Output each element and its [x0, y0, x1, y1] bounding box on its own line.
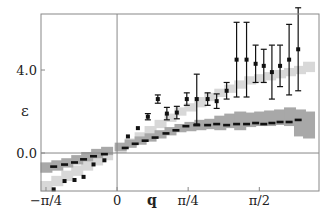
data-point	[206, 97, 210, 101]
x-tick-label: π/2	[249, 193, 270, 208]
data-point	[195, 97, 199, 101]
band-segment	[303, 62, 315, 72]
data-point	[102, 158, 106, 162]
data-point	[235, 58, 239, 62]
dash-marker	[182, 125, 189, 128]
dash-marker	[243, 123, 250, 126]
dash-marker	[101, 153, 108, 156]
y-tick-label: 0.0	[16, 146, 37, 161]
data-point	[254, 62, 258, 66]
dash-marker	[252, 122, 259, 125]
data-point	[73, 178, 77, 182]
data-point	[175, 111, 179, 115]
x-tick-label: π/4	[178, 193, 199, 208]
x-tick-label: 0	[113, 193, 121, 208]
data-point	[165, 112, 169, 116]
data-point	[270, 70, 274, 74]
dash-marker	[50, 165, 57, 168]
dash-marker	[213, 123, 220, 126]
dash-marker	[277, 121, 284, 124]
data-point	[136, 126, 140, 130]
dash-marker	[122, 147, 129, 150]
data-point	[296, 47, 300, 51]
x-tick-label: −π/4	[30, 193, 62, 208]
y-axis-label: ε	[21, 102, 29, 120]
data-point	[245, 58, 249, 62]
dash-marker	[233, 123, 240, 126]
data-point	[287, 58, 291, 62]
band-segment	[303, 112, 315, 139]
y-tick-label: 4.0	[16, 63, 37, 78]
dash-marker	[204, 124, 211, 127]
dash-marker	[71, 161, 78, 164]
dash-marker	[132, 142, 139, 145]
data-point	[156, 97, 160, 101]
data-point	[225, 89, 229, 93]
data-point	[92, 162, 96, 166]
dash-marker	[142, 139, 149, 142]
data-point	[262, 64, 266, 68]
data-point	[215, 99, 219, 103]
dash-marker	[80, 158, 87, 161]
data-point	[82, 175, 86, 179]
dash-marker	[193, 124, 200, 127]
data-point	[185, 97, 189, 101]
dash-marker	[172, 129, 179, 132]
dash-marker	[223, 124, 230, 127]
dash-marker	[286, 121, 293, 124]
x-axis-label: q	[147, 192, 157, 208]
data-point	[63, 179, 67, 183]
data-point	[126, 134, 130, 138]
dash-marker	[162, 132, 169, 135]
data-point	[278, 64, 282, 68]
dash-marker	[268, 122, 275, 125]
uncertainty-bands	[40, 62, 315, 192]
dash-marker	[61, 163, 68, 166]
dash-marker	[90, 155, 97, 158]
data-point	[146, 115, 150, 119]
dash-marker	[260, 123, 267, 126]
dash-marker	[152, 136, 159, 139]
chart: −π/40π/4π/20.04.0 ε q	[0, 0, 336, 215]
dash-marker	[295, 119, 302, 122]
